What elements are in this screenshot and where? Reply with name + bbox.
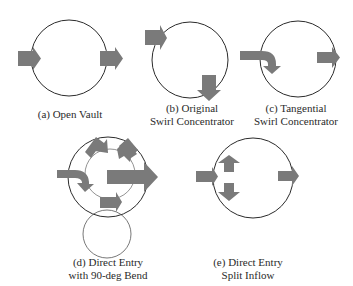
curved-inflow-arrow-icon (57, 170, 94, 192)
split-down-arrow-icon (218, 183, 240, 201)
panel-c-diagram (240, 21, 340, 97)
caption-d: (d) Direct Entry with 90-deg Bend (56, 256, 160, 282)
bend-arrow-icon (100, 192, 122, 212)
caption-a-line1: (a) Open Vault (18, 108, 122, 121)
downward-outflow-arrow-icon (197, 75, 221, 101)
outflow-arrow-icon (317, 47, 340, 68)
caption-c-line1: (c) Tangential (244, 102, 348, 115)
outflow-arrow-icon (278, 166, 299, 186)
caption-b-line1: (b) Original (140, 102, 244, 115)
caption-e: (e) Direct Entry Split Inflow (196, 256, 300, 282)
outflow-arrow-icon (100, 47, 123, 70)
outflow-arrow-icon (107, 162, 158, 192)
caption-e-line1: (e) Direct Entry (196, 256, 300, 269)
caption-b: (b) Original Swirl Concentrator (140, 102, 244, 128)
panel-b-diagram (145, 22, 228, 101)
caption-c: (c) Tangential Swirl Concentrator (244, 102, 348, 128)
diagram-canvas (0, 0, 353, 286)
swirl-arrow-icon (85, 137, 108, 158)
caption-e-line2: Split Inflow (196, 269, 300, 282)
caption-a: (a) Open Vault (18, 108, 122, 121)
panel-a-diagram (18, 20, 123, 96)
panel-e-diagram (196, 138, 299, 218)
panel-d-diagram (57, 137, 158, 258)
vault-circle (31, 20, 107, 96)
caption-c-line2: Swirl Concentrator (244, 115, 348, 128)
split-up-arrow-icon (218, 155, 240, 172)
tangential-inflow-arrow-icon (145, 25, 167, 50)
inflow-arrow-icon (18, 47, 41, 70)
caption-d-line1: (d) Direct Entry (56, 256, 160, 269)
caption-b-line2: Swirl Concentrator (140, 115, 244, 128)
inflow-arrow-icon (196, 167, 218, 186)
caption-d-line2: with 90-deg Bend (56, 269, 160, 282)
